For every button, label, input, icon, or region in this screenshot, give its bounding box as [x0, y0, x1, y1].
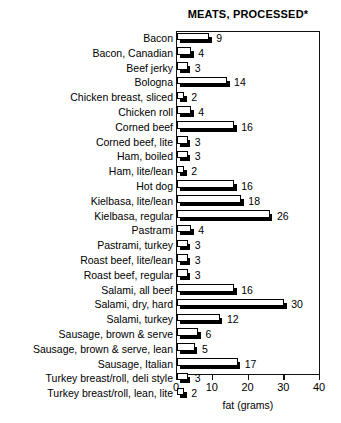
bar-face — [177, 136, 188, 144]
bar — [177, 312, 224, 327]
bar-category-label: Pastrami — [132, 224, 173, 236]
bar-value-label: 26 — [277, 210, 289, 222]
bar-face — [177, 210, 270, 218]
bar-value-label: 5 — [202, 343, 208, 355]
bar-category-label: Ham, lite/lean — [109, 165, 173, 177]
bar — [177, 327, 202, 342]
bar-value-label: 16 — [241, 121, 253, 133]
bar — [177, 179, 238, 194]
bar — [177, 357, 242, 372]
bar-category-label: Corned beef — [115, 121, 173, 133]
bar — [177, 149, 192, 164]
bar-row: Kielbasa, lite/lean18 — [0, 194, 341, 209]
bar-value-label: 3 — [195, 269, 201, 281]
bar-category-label: Salami, dry, hard — [94, 298, 173, 310]
bar-value-label: 14 — [234, 76, 246, 88]
bar-row: Hot dog16 — [0, 179, 341, 194]
bar-value-label: 3 — [195, 150, 201, 162]
bar-face — [177, 328, 198, 336]
bar — [177, 268, 192, 283]
bar-row: Beef jerky3 — [0, 61, 341, 76]
bar-category-label: Beef jerky — [126, 62, 173, 74]
bar-category-label: Sausage, Italian — [98, 358, 173, 370]
bar-category-label: Salami, turkey — [106, 313, 173, 325]
bar-category-label: Corned beef, lite — [96, 136, 173, 148]
bar — [177, 135, 192, 150]
bar-face — [177, 180, 234, 188]
bar-face — [177, 77, 227, 85]
bar-face — [177, 240, 188, 248]
bar-face — [177, 151, 188, 159]
bar-row: Pastrami, turkey3 — [0, 238, 341, 253]
bar-face — [177, 299, 284, 307]
bar-row: Salami, all beef16 — [0, 283, 341, 298]
bar-category-label: Chicken roll — [118, 106, 173, 118]
x-tick-label: 10 — [206, 381, 218, 393]
bar-value-label: 3 — [195, 136, 201, 148]
bar-category-label: Roast beef, regular — [84, 269, 173, 281]
bar-row: Chicken roll4 — [0, 105, 341, 120]
bar-value-label: 4 — [198, 106, 204, 118]
bar-category-label: Sausage, brown & serve — [59, 328, 173, 340]
bar-value-label: 4 — [198, 224, 204, 236]
bar-value-label: 4 — [198, 47, 204, 59]
bar-value-label: 3 — [195, 239, 201, 251]
bar-value-label: 2 — [191, 165, 197, 177]
bar-value-label: 3 — [195, 62, 201, 74]
bar-rows: Bacon9Bacon, Canadian4Beef jerky3Bologna… — [0, 31, 341, 401]
bar — [177, 164, 188, 179]
bar-category-label: Hot dog — [136, 180, 173, 192]
bar-category-label: Chicken breast, sliced — [70, 91, 173, 103]
bar-value-label: 12 — [227, 313, 239, 325]
bar-row: Roast beef, lite/lean3 — [0, 253, 341, 268]
bar — [177, 283, 238, 298]
bar-category-label: Ham, boiled — [117, 150, 173, 162]
bar-category-label: Bacon — [143, 32, 173, 44]
bar-value-label: 18 — [248, 195, 260, 207]
bar — [177, 61, 192, 76]
bar — [177, 209, 274, 224]
bar-face — [177, 33, 209, 41]
bar-face — [177, 47, 191, 55]
bar-face — [177, 62, 188, 70]
bar — [177, 105, 195, 120]
bar-face — [177, 166, 184, 174]
x-tick-label: 30 — [277, 381, 289, 393]
bar-chart: MEATS, PROCESSED* Bacon9Bacon, Canadian4… — [0, 0, 341, 423]
bar-category-label: Kielbasa, lite/lean — [91, 195, 173, 207]
x-tick-label: 20 — [241, 381, 253, 393]
bar-value-label: 2 — [191, 91, 197, 103]
bar — [177, 75, 231, 90]
bar-value-label: 9 — [216, 32, 222, 44]
bar — [177, 297, 288, 312]
bar-category-label: Pastrami, turkey — [97, 239, 173, 251]
bar-face — [177, 314, 220, 322]
bar-value-label: 3 — [195, 254, 201, 266]
bar-row: Bacon9 — [0, 31, 341, 46]
bar-row: Roast beef, regular3 — [0, 268, 341, 283]
bar-row: Ham, lite/lean2 — [0, 164, 341, 179]
x-tick-label: 0 — [173, 381, 179, 393]
bar-face — [177, 343, 195, 351]
bar-value-label: 16 — [241, 284, 253, 296]
bar-row: Bacon, Canadian4 — [0, 46, 341, 61]
x-axis-title: fat (grams) — [176, 399, 320, 411]
bar-value-label: 16 — [241, 180, 253, 192]
bar — [177, 194, 245, 209]
bar-face — [177, 92, 184, 100]
bar-value-label: 17 — [245, 358, 257, 370]
bar-category-label: Sausage, brown & serve, lean — [33, 343, 173, 355]
bar-category-label: Turkey breast/roll, deli style — [46, 372, 173, 384]
bar-value-label: 30 — [291, 298, 303, 310]
x-tick-mark — [319, 375, 320, 380]
bar-face — [177, 225, 191, 233]
bar — [177, 31, 213, 46]
bar — [177, 120, 238, 135]
bar-value-label: 6 — [205, 328, 211, 340]
bar-row: Bologna14 — [0, 75, 341, 90]
x-tick-label: 40 — [313, 381, 325, 393]
bar — [177, 46, 195, 61]
bar-row: Sausage, brown & serve6 — [0, 327, 341, 342]
bar-row: Pastrami4 — [0, 223, 341, 238]
bar-row: Ham, boiled3 — [0, 149, 341, 164]
